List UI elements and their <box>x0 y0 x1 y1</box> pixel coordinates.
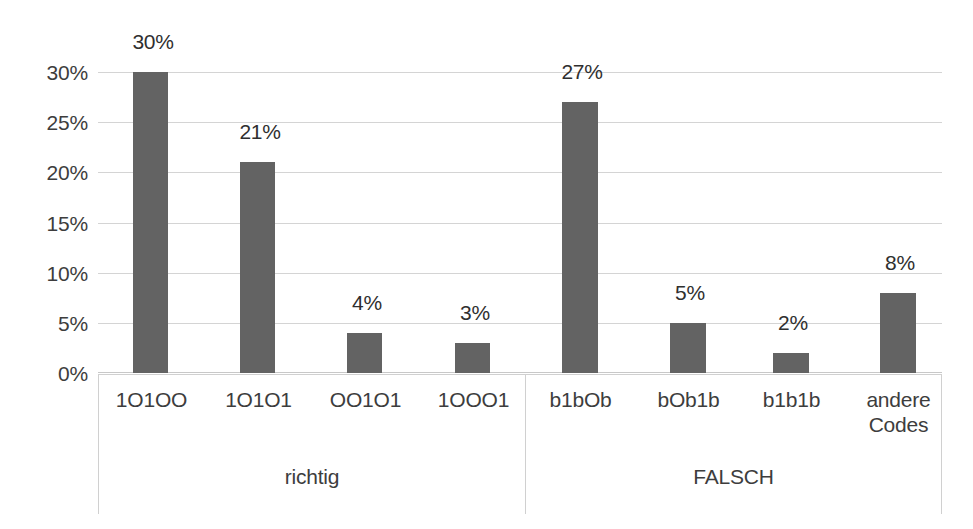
bar-value-label-1o1oo: 30% <box>103 31 203 52</box>
bar-value-label-oo1o1: 4% <box>317 292 417 313</box>
bar-value-label-b1bob: 27% <box>532 61 632 82</box>
bar-value-label-bob1b: 5% <box>640 282 740 303</box>
category-label-oo1o1: OO1O1 <box>313 387 418 412</box>
gridline-10 <box>98 273 942 274</box>
category-axis-band: 1O1OO 1O1O1 OO1O1 1OOO1 b1bOb bOb1b b1b1… <box>98 374 942 452</box>
bar-1o1o1[interactable] <box>240 162 275 373</box>
category-label-b1b1b: b1b1b <box>739 387 844 412</box>
bar-value-label-1ooo1: 3% <box>425 302 525 323</box>
category-label-andere-codes-line2: Codes <box>846 412 951 437</box>
bar-b1bob[interactable] <box>562 102 598 373</box>
bar-chart: 30% 25% 20% 15% 10% 5% 0% 30% 21% 4% 3% … <box>0 0 973 529</box>
y-axis-tick-15: 15% <box>12 213 88 234</box>
category-label-b1bob: b1bOb <box>528 387 633 412</box>
category-label-1o1o1: 1O1O1 <box>206 387 311 412</box>
bar-1o1oo[interactable] <box>133 72 168 373</box>
group-label-falsch: FALSCH <box>526 465 941 489</box>
category-label-bob1b: bOb1b <box>636 387 741 412</box>
y-axis-tick-30: 30% <box>12 62 88 83</box>
y-axis-tick-20: 20% <box>12 162 88 183</box>
category-label-andere-codes-line1: andere <box>846 387 951 412</box>
gridline-15 <box>98 223 942 224</box>
category-label-1ooo1: 1OOO1 <box>421 387 526 412</box>
gridline-30 <box>98 72 942 73</box>
y-axis-tick-10: 10% <box>12 263 88 284</box>
bar-bob1b[interactable] <box>670 323 706 373</box>
bar-b1b1b[interactable] <box>773 353 809 373</box>
category-label-1o1oo: 1O1OO <box>99 387 204 412</box>
bar-value-label-b1b1b: 2% <box>743 312 843 333</box>
bar-value-label-andere-codes: 8% <box>850 252 950 273</box>
y-axis-tick-5: 5% <box>12 313 88 334</box>
bar-1ooo1[interactable] <box>455 343 490 373</box>
group-axis-band: richtig FALSCH <box>98 452 942 514</box>
y-axis-tick-0: 0% <box>12 363 88 384</box>
gridline-20 <box>98 172 942 173</box>
bar-oo1o1[interactable] <box>347 333 382 373</box>
group-divider <box>525 374 526 514</box>
gridline-baseline-0 <box>98 372 942 373</box>
group-label-richtig: richtig <box>99 465 525 489</box>
y-axis: 30% 25% 20% 15% 10% 5% 0% <box>0 0 88 529</box>
y-axis-tick-25: 25% <box>12 112 88 133</box>
bar-andere-codes[interactable] <box>880 293 916 373</box>
bar-value-label-1o1o1: 21% <box>210 121 310 142</box>
